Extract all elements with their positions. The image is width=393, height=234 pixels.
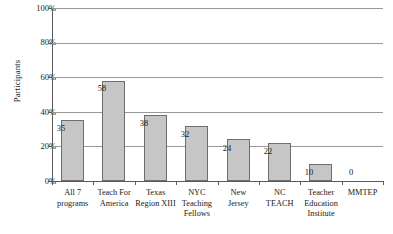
x-category-mmtep: MMTEP <box>337 188 389 199</box>
x-tick-mark-4 <box>218 181 219 185</box>
x-tick-mark-0 <box>52 181 53 185</box>
x-tick-mark-7 <box>342 181 343 185</box>
gridline-100 <box>52 8 383 9</box>
bar-teach-for-america[interactable] <box>102 81 125 181</box>
bar-value-new-jersey: 24 <box>207 143 247 153</box>
x-category-line: Fellows <box>171 209 223 220</box>
x-category-line: Education <box>295 199 347 210</box>
bar-value-mmtep: 0 <box>331 167 371 177</box>
bar-value-teach-for-america: 58 <box>82 83 122 93</box>
bar-value-nc-teach: 22 <box>248 146 288 156</box>
x-tick-mark-3 <box>176 181 177 185</box>
x-tick-mark-6 <box>300 181 301 185</box>
bar-value-nyc-teaching-fellows: 32 <box>165 129 205 139</box>
x-tick-mark-1 <box>93 181 94 185</box>
bar-value-texas-region-xiii: 38 <box>124 118 164 128</box>
x-tick-mark-5 <box>259 181 260 185</box>
plot-area <box>52 8 383 181</box>
x-category-line: MMTEP <box>337 188 389 199</box>
gridline-80 <box>52 43 383 44</box>
bar-chart: Participants 100% 80% 60% 40% 20% 0% 35 … <box>0 0 393 234</box>
bar-value-teacher-education-institute: 10 <box>289 167 329 177</box>
x-tick-mark-2 <box>135 181 136 185</box>
bar-value-all-7-programs: 35 <box>41 123 81 133</box>
gridline-60 <box>52 77 383 78</box>
x-category-line: Institute <box>295 209 347 220</box>
x-tick-mark-8 <box>383 181 384 185</box>
